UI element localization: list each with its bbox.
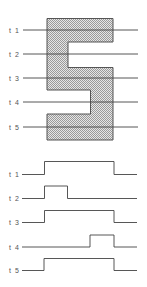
waveforms: t 1t 2t 3t 4t 5 [9,162,137,275]
waveform-label: t 3 [9,219,20,226]
s-shape-polygon [47,19,113,141]
waveform-signal [22,235,137,247]
scan-line-label: t 3 [9,75,20,82]
waveform-signal [22,162,137,175]
scan-line-4: t 4 [9,99,138,106]
waveform-4: t 4 [9,235,137,251]
waveform-label: t 2 [9,195,20,202]
scan-line-2: t 2 [9,51,138,58]
scan-diagram: t 1t 2t 3t 4t 5 t 1t 2t 3t 4t 5 [0,0,147,287]
s-shape-object [47,19,113,141]
waveform-label: t 4 [9,244,20,251]
waveform-signal [22,186,137,199]
waveform-signal [22,211,137,223]
scan-line-label: t 5 [9,124,20,131]
scan-line-label: t 1 [9,27,20,34]
waveform-1: t 1 [9,162,137,179]
waveform-5: t 5 [9,259,137,275]
waveform-3: t 3 [9,211,137,227]
waveform-label: t 5 [9,267,20,274]
scan-line-label: t 4 [9,99,20,106]
waveform-signal [22,259,137,271]
waveform-2: t 2 [9,186,137,202]
waveform-label: t 1 [9,171,20,178]
scan-line-label: t 2 [9,51,20,58]
